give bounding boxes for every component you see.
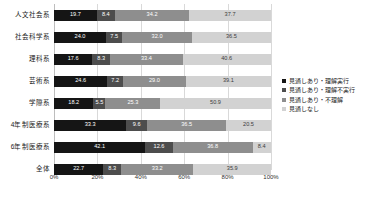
bar-segment: 8.4: [97, 10, 115, 21]
bar-segment: 29.0: [123, 76, 186, 87]
category-label: 4年制医療系: [0, 122, 54, 129]
bar-segment: 18.2: [54, 98, 93, 109]
legend-label: 見通しあり・不理解: [289, 97, 343, 103]
bar-segment: 34.2: [115, 10, 189, 21]
bar-segment: 5.5: [93, 98, 105, 109]
x-tick-label: 0%: [50, 174, 59, 180]
stacked-bar-chart: 人文社会系19.78.434.237.7社会科学系24.07.532.036.5…: [0, 0, 372, 199]
chart-row: 社会科学系24.07.532.036.5: [0, 28, 372, 46]
bar-segment: 9.6: [126, 120, 147, 131]
x-tick-label: 60%: [178, 174, 190, 180]
bar-track: 17.68.333.440.6: [54, 54, 271, 65]
x-tick-label: 80%: [222, 174, 234, 180]
bar-segment: 7.5: [106, 32, 122, 43]
legend-swatch-icon: [282, 79, 286, 83]
bar-segment: 50.9: [160, 98, 270, 109]
chart-row: 理科系17.68.333.440.6: [0, 50, 372, 68]
bar-segment: 19.7: [54, 10, 97, 21]
x-tick-label: 100%: [263, 174, 278, 180]
bar-segment: 40.6: [183, 54, 271, 65]
bar-segment: 33.4: [110, 54, 182, 65]
bar-track: 24.67.229.039.1: [54, 76, 271, 87]
category-label: 理科系: [0, 56, 54, 63]
legend-label: 見通しあり・理解実行: [289, 78, 350, 84]
x-axis: 0%20%40%60%80%100%: [54, 171, 271, 185]
bar-segment: 12.6: [145, 142, 172, 153]
bar-segment: 32.0: [122, 32, 191, 43]
bar-segment: 42.1: [54, 142, 145, 153]
bar-segment: 8.4: [253, 142, 271, 153]
bar-segment: 24.6: [54, 76, 107, 87]
x-tick-label: 40%: [135, 174, 147, 180]
bar-segment: 24.0: [54, 32, 106, 43]
category-label: 芸術系: [0, 78, 54, 85]
bar-segment: 8.3: [92, 54, 110, 65]
bar-segment: 25.3: [105, 98, 160, 109]
legend-swatch-icon: [282, 98, 286, 102]
category-label: 学際系: [0, 100, 54, 107]
bar-segment: 17.6: [54, 54, 92, 65]
legend-label: 見通しあり・理解不実行: [289, 87, 356, 93]
bar-segment: 36.5: [192, 32, 271, 43]
bar-segment: 7.2: [107, 76, 123, 87]
bar-track: 19.78.434.237.7: [54, 10, 271, 21]
legend-swatch-icon: [282, 107, 286, 111]
legend-item[interactable]: 見通しあり・理解実行: [282, 76, 370, 86]
category-label: 人文社会系: [0, 12, 54, 19]
category-label: 全体: [0, 166, 54, 173]
legend-item[interactable]: 見通しあり・理解不実行: [282, 86, 370, 96]
bar-segment: 20.5: [226, 120, 270, 131]
legend-label: 見通しなし: [289, 106, 319, 112]
chart-legend: 見通しあり・理解実行見通しあり・理解不実行見通しあり・不理解見通しなし: [282, 76, 370, 114]
category-label: 社会科学系: [0, 34, 54, 41]
bar-track: 42.112.636.88.4: [54, 142, 271, 153]
chart-row: 4年制医療系33.39.636.520.5: [0, 116, 372, 134]
category-label: 6年制医療系: [0, 144, 54, 151]
chart-row: 6年制医療系42.112.636.88.4: [0, 138, 372, 156]
bar-track: 24.07.532.036.5: [54, 32, 271, 43]
bar-track: 33.39.636.520.5: [54, 120, 271, 131]
bar-segment: 36.5: [147, 120, 226, 131]
chart-row: 人文社会系19.78.434.237.7: [0, 6, 372, 24]
legend-item[interactable]: 見通しなし: [282, 105, 370, 115]
bar-segment: 33.3: [54, 120, 126, 131]
x-tick-label: 20%: [91, 174, 103, 180]
bar-segment: 37.7: [189, 10, 271, 21]
bar-segment: 36.8: [173, 142, 253, 153]
legend-swatch-icon: [282, 88, 286, 92]
bar-segment: 39.1: [186, 76, 271, 87]
legend-item[interactable]: 見通しあり・不理解: [282, 95, 370, 105]
bar-track: 18.25.525.350.9: [54, 98, 271, 109]
